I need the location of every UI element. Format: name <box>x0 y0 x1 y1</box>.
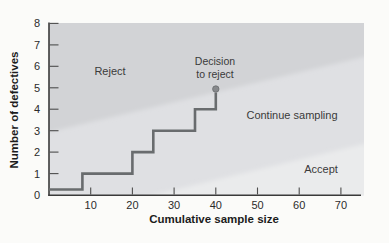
y-tick-label-2: 2 <box>20 147 40 158</box>
decision-point-dot <box>213 86 219 92</box>
x-tick-label-50: 50 <box>251 200 263 211</box>
x-tick-label-40: 40 <box>210 200 222 211</box>
y-tick-label-4: 4 <box>20 104 40 115</box>
y-tick-label-8: 8 <box>20 18 40 29</box>
x-axis-title: Cumulative sample size <box>149 213 279 225</box>
x-tick-label-20: 20 <box>126 200 138 211</box>
x-tick-label-60: 60 <box>293 200 305 211</box>
y-tick-label-3: 3 <box>20 125 40 136</box>
y-axis-title: Number of defectives <box>8 52 20 169</box>
decision-annotation-line1: Decision <box>195 55 235 67</box>
y-tick-label-6: 6 <box>20 61 40 72</box>
plot-canvas <box>0 0 389 243</box>
y-tick-label-5: 5 <box>20 82 40 93</box>
x-tick-label-10: 10 <box>85 200 97 211</box>
y-tick-label-7: 7 <box>20 39 40 50</box>
sequential-sampling-chart: 8 7 6 5 4 3 2 1 0 10 20 30 40 50 60 70 R… <box>0 0 389 243</box>
decision-to-reject-annotation: Decision to reject <box>195 55 235 80</box>
continue-sampling-region-label: Continue sampling <box>246 109 337 121</box>
y-tick-label-0: 0 <box>20 190 40 201</box>
reject-region-label: Reject <box>94 65 125 77</box>
decision-annotation-line2: to reject <box>196 67 233 79</box>
accept-region-label: Accept <box>304 163 338 175</box>
y-tick-label-1: 1 <box>20 168 40 179</box>
x-tick-label-30: 30 <box>168 200 180 211</box>
x-tick-label-70: 70 <box>335 200 347 211</box>
